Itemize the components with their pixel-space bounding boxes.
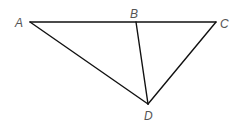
triangle-diagram: A B C D — [0, 0, 240, 126]
segment-bd — [136, 22, 148, 104]
vertex-label-a: A — [14, 16, 23, 30]
vertex-label-c: C — [220, 17, 229, 31]
vertex-label-d: D — [144, 109, 153, 123]
vertex-label-b: B — [130, 7, 138, 21]
diagram-canvas: A B C D — [0, 0, 240, 126]
segment-cd — [148, 22, 216, 104]
segment-ad — [30, 22, 148, 104]
